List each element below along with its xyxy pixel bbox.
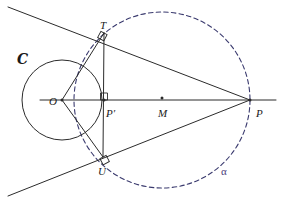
geometry-figure: C T O P′ M P U α (0, 0, 284, 203)
label-point-t: T (100, 20, 106, 31)
label-circle-c: C (17, 52, 28, 66)
point-dot-pprime (103, 99, 106, 102)
label-point-o: O (49, 96, 57, 107)
label-point-m: M (158, 108, 167, 119)
radius-segment-o-u (62, 100, 103, 157)
label-circle-alpha: α (221, 166, 227, 177)
point-dot-m (161, 97, 164, 100)
label-point-u: U (98, 166, 106, 177)
tangent-line-upper (8, 7, 250, 100)
point-dot-p (249, 99, 252, 102)
label-point-p-prime: P′ (106, 108, 115, 119)
point-dot-o (61, 99, 64, 102)
point-dots-group (61, 97, 252, 102)
label-point-p: P (256, 108, 263, 119)
chord-segment-t-u (103, 33, 104, 157)
radius-segment-o-t (62, 33, 104, 100)
figure-canvas (0, 0, 284, 203)
